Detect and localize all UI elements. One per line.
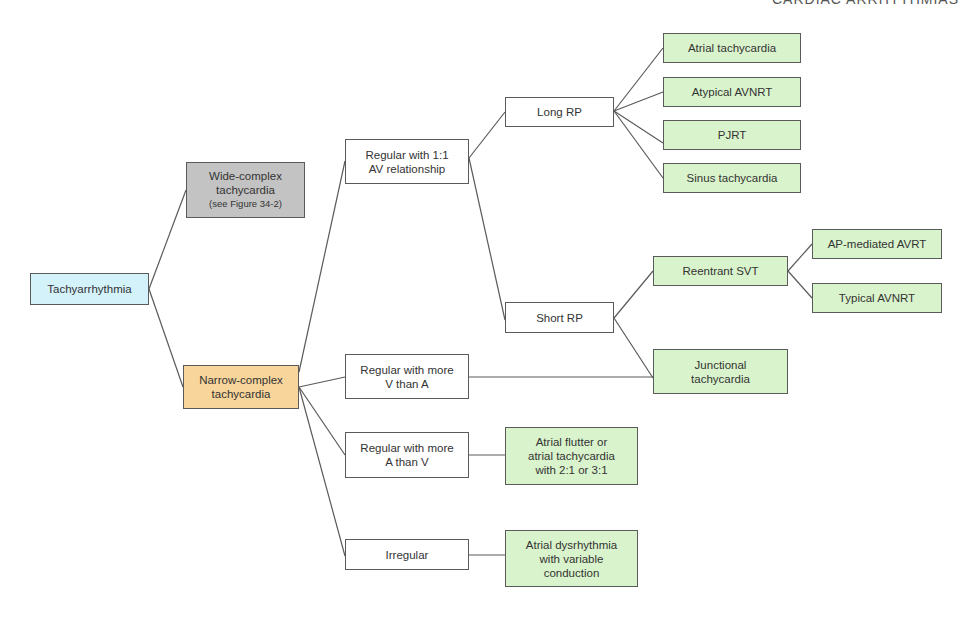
node-regular-a-gt-v: Regular with more A than V (345, 432, 469, 478)
edge-long-sinus (614, 111, 663, 178)
node-label: PJRT (718, 128, 747, 142)
edge-narrow-irregular (299, 387, 345, 556)
node-long-rp: Long RP (505, 97, 614, 127)
node-typical-avnrt: Typical AVNRT (812, 283, 942, 313)
node-label: Atrial tachycardia (688, 41, 776, 55)
edge-regular-short-rp (469, 158, 505, 320)
node-ap-mediated-avrt: AP-mediated AVRT (812, 229, 942, 259)
node-label: Short RP (536, 311, 583, 325)
edge-root-narrow (149, 289, 183, 387)
edge-narrow-regular-1-1 (299, 161, 345, 372)
node-label: Tachyarrhythmia (47, 282, 131, 296)
node-irregular: Irregular (345, 539, 469, 570)
edge-short-reentrant (614, 271, 653, 318)
edge-short-junctional (614, 318, 653, 378)
node-atrial-dysrhythmia: Atrial dysrhythmia with variable conduct… (505, 530, 638, 587)
node-label: Atrial flutter or atrial tachycardia wit… (528, 435, 615, 477)
node-label: Sinus tachycardia (687, 171, 778, 185)
edge-root-wide (149, 190, 186, 289)
node-atrial-tachycardia: Atrial tachycardia (663, 33, 801, 63)
node-tachyarrhythmia: Tachyarrhythmia (30, 273, 149, 305)
node-label: Regular with more V than A (360, 363, 453, 391)
node-label: Atrial dysrhythmia with variable conduct… (526, 538, 617, 580)
node-atypical-avnrt: Atypical AVNRT (663, 77, 801, 107)
node-label: Reentrant SVT (682, 264, 758, 278)
node-junctional-tachycardia: Junctional tachycardia (653, 349, 788, 394)
node-label: Regular with 1:1 AV relationship (365, 148, 448, 176)
node-label: Wide-complex tachycardia (209, 169, 282, 197)
node-label: Irregular (386, 548, 429, 562)
node-label: AP-mediated AVRT (828, 237, 927, 251)
node-wide-complex: Wide-complex tachycardia (see Figure 34-… (186, 162, 305, 218)
edge-regular-long-rp (469, 112, 505, 158)
node-regular-1-1: Regular with 1:1 AV relationship (345, 139, 469, 184)
node-label: Regular with more A than V (360, 441, 453, 469)
node-atrial-flutter: Atrial flutter or atrial tachycardia wit… (505, 427, 638, 485)
node-label: Typical AVNRT (839, 291, 915, 305)
figure-reference: (see Figure 34-2) (209, 197, 282, 211)
node-label: Narrow-complex tachycardia (199, 373, 283, 401)
edge-narrow-regular-v (299, 377, 345, 387)
edge-reentrant-ap (788, 244, 812, 271)
node-narrow-complex: Narrow-complex tachycardia (183, 365, 299, 409)
edge-reentrant-typical (788, 271, 812, 298)
node-label: Long RP (537, 105, 582, 119)
node-label: Junctional tachycardia (691, 358, 750, 386)
edge-long-pjrt (614, 111, 663, 143)
edge-narrow-regular-a (299, 387, 345, 455)
node-regular-v-gt-a: Regular with more V than A (345, 354, 469, 399)
node-label: Atypical AVNRT (692, 85, 773, 99)
node-pjrt: PJRT (663, 120, 801, 150)
node-sinus-tachycardia: Sinus tachycardia (663, 163, 801, 193)
node-short-rp: Short RP (505, 302, 614, 333)
node-reentrant-svt: Reentrant SVT (653, 256, 788, 286)
